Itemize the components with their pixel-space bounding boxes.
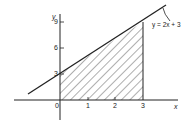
line-equation-label: y = 2x + 3 (152, 22, 181, 29)
y-tick-label-9: 9 (54, 18, 58, 25)
y-tick-label-6: 6 (54, 44, 58, 51)
label-leader (163, 8, 170, 21)
origin-label: 0 (55, 102, 59, 109)
x-tick-label-2: 2 (113, 102, 117, 109)
shaded-region (60, 22, 143, 100)
graph-canvas (0, 0, 193, 126)
x-tick-label-3: 3 (141, 102, 145, 109)
x-axis-label: x (174, 103, 178, 110)
y-tick-label-3: 3 (54, 70, 58, 77)
x-tick-label-1: 1 (86, 102, 90, 109)
